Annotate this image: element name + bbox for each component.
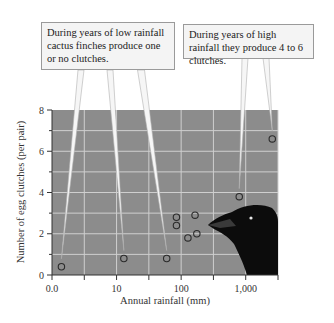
x-axis-title: Annual rainfall (mm): [120, 295, 210, 307]
y-tick-label: 8: [39, 105, 44, 116]
y-axis-title: Number of egg clutches (per pair): [15, 120, 27, 263]
callout-low-rainfall: During years of low rainfall cactus finc…: [41, 22, 175, 70]
x-tick-label: 100: [174, 283, 189, 294]
callout-high-rainfall: During years of high rainfall they produ…: [183, 24, 314, 59]
x-tick-label: 0.0: [46, 283, 59, 294]
y-tick-label: 2: [39, 228, 44, 239]
y-tick-label: 0: [39, 270, 44, 281]
x-tick-label: 10: [112, 283, 122, 294]
y-tick-label: 6: [39, 146, 44, 157]
y-tick-label: 4: [39, 187, 44, 198]
x-tick-label: 1,000: [234, 283, 257, 294]
